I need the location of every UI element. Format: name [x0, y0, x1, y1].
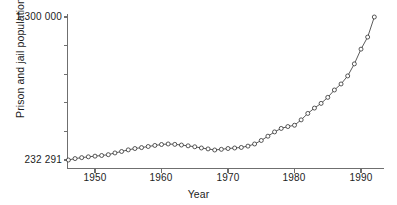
data-point-marker: [279, 126, 283, 130]
data-point-marker: [106, 153, 110, 157]
data-point-marker: [153, 143, 157, 147]
data-point-marker: [206, 147, 210, 151]
data-point-marker: [86, 155, 90, 159]
data-point-marker: [266, 134, 270, 138]
data-point-marker: [213, 148, 217, 152]
data-point-marker: [339, 82, 343, 86]
data-point-marker: [332, 88, 336, 92]
data-point-marker: [346, 74, 350, 78]
data-point-marker: [179, 143, 183, 147]
data-point-marker: [93, 154, 97, 158]
x-axis-tick-label-1960: 1960: [136, 172, 186, 183]
data-point-marker: [273, 130, 277, 134]
data-point-marker: [219, 147, 223, 151]
data-point-marker: [66, 158, 70, 162]
data-point-marker: [133, 147, 137, 151]
prison-population-chart: Prison and jail population 1 300 000 232…: [0, 0, 397, 205]
data-point-marker: [233, 146, 237, 150]
data-point-marker: [239, 145, 243, 149]
data-point-marker: [100, 153, 104, 157]
data-point-marker: [299, 118, 303, 122]
data-point-marker: [226, 147, 230, 151]
data-point-marker: [120, 149, 124, 153]
data-point-marker: [186, 144, 190, 148]
data-point-marker: [293, 123, 297, 127]
data-point-marker: [352, 62, 356, 66]
data-point-marker: [113, 151, 117, 155]
data-point-marker: [193, 145, 197, 149]
x-axis-tick-label-1990: 1990: [336, 172, 386, 183]
x-axis-tick-label-1980: 1980: [269, 172, 319, 183]
data-point-marker: [160, 143, 164, 147]
data-point-marker: [166, 142, 170, 146]
x-axis-tick-label-1970: 1970: [203, 172, 253, 183]
y-axis-tick-label-bottom: 232 291: [0, 154, 62, 165]
data-point-marker: [286, 125, 290, 129]
data-point-marker: [246, 144, 250, 148]
data-point-marker: [80, 156, 84, 160]
data-point-marker: [126, 148, 130, 152]
data-point-marker: [259, 138, 263, 142]
data-point-marker: [319, 101, 323, 105]
x-axis-title: Year: [0, 188, 397, 200]
data-point-marker: [173, 142, 177, 146]
data-point-marker: [140, 146, 144, 150]
data-point-marker: [306, 111, 310, 115]
data-point-marker: [359, 47, 363, 51]
data-point-marker: [73, 157, 77, 161]
data-point-marker: [326, 95, 330, 99]
x-axis-tick-label-1950: 1950: [70, 172, 120, 183]
y-axis-tick-label-top: 1 300 000: [0, 11, 62, 22]
data-point-marker: [366, 35, 370, 39]
data-markers: [66, 15, 376, 162]
data-point-marker: [199, 146, 203, 150]
data-point-marker: [312, 106, 316, 110]
data-line-prison-population: [68, 17, 374, 160]
data-point-marker: [146, 145, 150, 149]
data-point-marker: [253, 142, 257, 146]
data-point-marker: [372, 15, 376, 19]
y-axis-tickmarks: [64, 17, 68, 160]
